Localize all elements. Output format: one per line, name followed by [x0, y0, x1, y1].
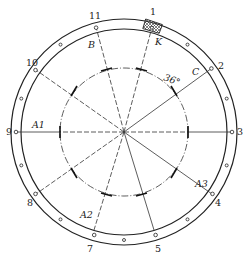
label-10: 10 — [26, 57, 38, 68]
bolt-holes — [14, 26, 234, 242]
label-a2: A2 — [79, 209, 93, 220]
label-7: 7 — [87, 243, 93, 254]
point-labels: A1 A2 A3 B C K 36° — [31, 36, 208, 220]
label-9: 9 — [6, 126, 12, 137]
label-c: C — [192, 66, 200, 77]
flange-diagram: 1 2 3 4 5 7 8 9 10 11 A1 A2 A3 B C K 36° — [0, 0, 247, 262]
radial-lines — [17, 27, 232, 230]
label-11: 11 — [89, 10, 101, 21]
label-b: B — [87, 39, 95, 50]
label-k: K — [154, 36, 163, 47]
diagram-canvas: 1 2 3 4 5 7 8 9 10 11 A1 A2 A3 B C K 36° — [0, 0, 247, 262]
label-a1: A1 — [31, 119, 45, 130]
label-2: 2 — [218, 60, 224, 71]
angle-annotation: 36° — [162, 72, 182, 88]
label-5: 5 — [155, 243, 161, 254]
label-8: 8 — [27, 197, 33, 208]
label-4: 4 — [215, 197, 221, 208]
label-a3: A3 — [194, 178, 208, 189]
label-1: 1 — [150, 6, 156, 17]
label-3: 3 — [237, 126, 243, 137]
